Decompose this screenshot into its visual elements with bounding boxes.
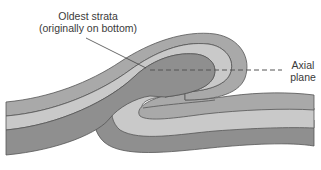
- oldest-strata-label-line2: (originally on bottom): [38, 22, 138, 34]
- axial-plane-label-line2: plane: [286, 71, 320, 83]
- oldest-strata-label: Oldest strata (originally on bottom): [38, 10, 138, 34]
- oldest-strata-label-line1: Oldest strata: [38, 10, 138, 22]
- axial-plane-label-line1: Axial: [286, 59, 320, 71]
- axial-plane-label: Axial plane: [286, 59, 320, 83]
